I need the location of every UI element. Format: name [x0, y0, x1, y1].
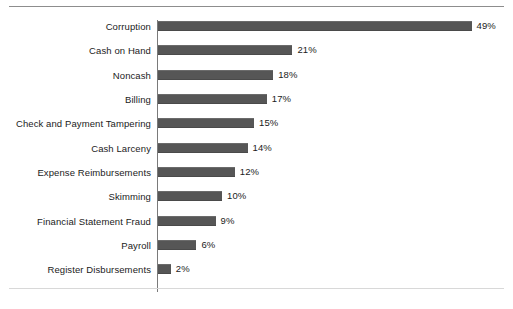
bar — [158, 118, 254, 128]
horizontal-bar-chart: Corruption49%Cash on Hand21%Noncash18%Bi… — [0, 0, 513, 309]
bar-value-label: 12% — [240, 167, 259, 177]
bottom-divider-rule — [9, 288, 504, 289]
bar-value-label: 14% — [253, 143, 272, 153]
bar-value-label: 9% — [221, 216, 235, 226]
bar-row: Cash on Hand21% — [0, 38, 513, 62]
bar-row: Skimming10% — [0, 184, 513, 208]
bar — [158, 216, 216, 226]
bar-value-label: 10% — [227, 191, 246, 201]
bar-row: Check and Payment Tampering15% — [0, 111, 513, 135]
bar-row: Financial Statement Fraud9% — [0, 208, 513, 232]
bar-value-label: 18% — [278, 70, 297, 80]
bar — [158, 143, 248, 153]
category-label: Cash Larceny — [91, 142, 157, 153]
category-label: Payroll — [121, 239, 157, 250]
bar-rows: Corruption49%Cash on Hand21%Noncash18%Bi… — [0, 14, 513, 281]
bar-row: Billing17% — [0, 87, 513, 111]
category-label: Billing — [125, 94, 157, 105]
bar-row: Register Disbursements2% — [0, 257, 513, 281]
bar-with-value: 18% — [158, 70, 298, 80]
category-label: Cash on Hand — [89, 45, 157, 56]
bar — [158, 167, 235, 177]
bar-value-label: 49% — [477, 21, 496, 31]
bar-with-value: 2% — [158, 264, 190, 274]
category-label: Financial Statement Fraud — [37, 215, 157, 226]
top-divider-rule — [9, 6, 504, 7]
bar-with-value: 49% — [158, 21, 496, 31]
category-label: Noncash — [113, 69, 157, 80]
bar-with-value: 9% — [158, 216, 235, 226]
bar-row: Corruption49% — [0, 14, 513, 38]
bar-with-value: 15% — [158, 118, 278, 128]
bar-value-label: 2% — [176, 264, 190, 274]
bar-with-value: 21% — [158, 45, 317, 55]
bar — [158, 191, 222, 201]
bar-value-label: 6% — [201, 240, 215, 250]
category-label: Register Disbursements — [47, 264, 157, 275]
bar-with-value: 14% — [158, 143, 272, 153]
category-label: Expense Reimbursements — [37, 166, 157, 177]
bar — [158, 264, 171, 274]
bar-row: Expense Reimbursements12% — [0, 160, 513, 184]
bar-with-value: 10% — [158, 191, 246, 201]
bar-row: Noncash18% — [0, 63, 513, 87]
bar-value-label: 17% — [272, 94, 291, 104]
category-label: Check and Payment Tampering — [16, 118, 157, 129]
bar-with-value: 6% — [158, 240, 215, 250]
bar — [158, 70, 273, 80]
bar — [158, 21, 472, 31]
bar — [158, 94, 267, 104]
bar-with-value: 17% — [158, 94, 291, 104]
category-label: Skimming — [108, 191, 157, 202]
bar — [158, 240, 196, 250]
plot-area: Corruption49%Cash on Hand21%Noncash18%Bi… — [0, 14, 513, 292]
bar-value-label: 21% — [297, 45, 316, 55]
bar-with-value: 12% — [158, 167, 259, 177]
bar-row: Payroll6% — [0, 233, 513, 257]
bar-value-label: 15% — [259, 118, 278, 128]
bar-row: Cash Larceny14% — [0, 135, 513, 159]
category-label: Corruption — [106, 21, 157, 32]
bar — [158, 45, 292, 55]
